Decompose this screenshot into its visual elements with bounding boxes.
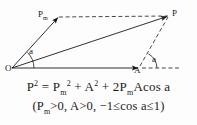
formula-equals: = bbox=[42, 79, 50, 94]
formula-lhs-exponent: 2 bbox=[34, 79, 38, 88]
label-angle-origin: a bbox=[29, 47, 33, 56]
label-origin: O bbox=[5, 64, 12, 73]
label-angle-at-a: a bbox=[152, 55, 156, 64]
formula-plus-1: + bbox=[74, 79, 82, 94]
formula-term3-tail: Acos a bbox=[133, 79, 170, 94]
formula-term2: A bbox=[85, 79, 95, 94]
formula-term2-exponent: 2 bbox=[94, 79, 98, 88]
conditions-body: >0, A>0, −1≤cos a≤1) bbox=[50, 99, 164, 113]
formula-lhs: P bbox=[27, 79, 34, 94]
dashed-edge-pm-to-p bbox=[59, 16, 168, 17]
formula-plus-2: + bbox=[102, 79, 110, 94]
vector-diagram-figure: Pm P O A a a P2 = Pm2 + A2 + 2PmAcos a (… bbox=[0, 0, 197, 125]
formula-conditions: (Pm>0, A>0, −1≤cos a≤1) bbox=[0, 100, 197, 113]
conditions-open: (P bbox=[32, 99, 44, 113]
formula-main-equation: P2 = Pm2 + A2 + 2PmAcos a bbox=[0, 80, 197, 93]
vector-parallelogram-svg bbox=[0, 0, 197, 76]
formula-block: P2 = Pm2 + A2 + 2PmAcos a (Pm>0, A>0, −1… bbox=[0, 76, 197, 113]
label-pm-vertex: Pm bbox=[38, 10, 48, 19]
label-p-resultant: P bbox=[172, 9, 177, 18]
formula-term1-exponent: 2 bbox=[67, 79, 71, 88]
formula-term3: 2P bbox=[113, 79, 127, 94]
formula-term1-sub: m bbox=[60, 88, 66, 97]
label-a-vertex: A bbox=[134, 66, 141, 75]
